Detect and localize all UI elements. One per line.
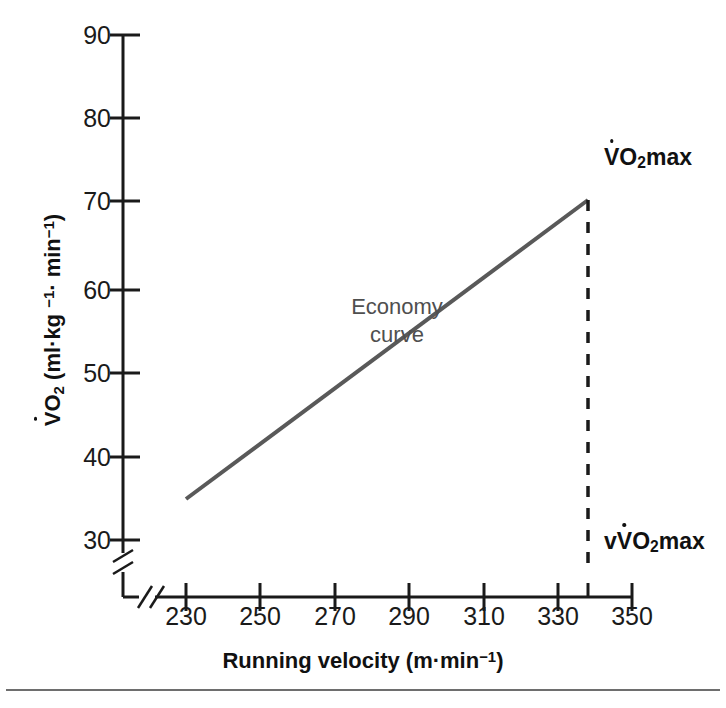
y-axis-title-suffix: ) xyxy=(40,214,65,221)
x-tick-label-270: 270 xyxy=(295,604,375,629)
y-axis-title-mid2: · min xyxy=(40,238,65,291)
x-tick-label-330: 330 xyxy=(518,604,598,629)
vo2max-o-letter: O xyxy=(619,144,637,170)
y-axis-title-o-letter: O xyxy=(40,394,65,411)
y-axis-title: VO2 (ml·kg −1· min−1) xyxy=(40,214,67,426)
bottom-divider-rule xyxy=(6,689,720,691)
x-tick-label-250: 250 xyxy=(220,604,300,629)
x-tick-label-290: 290 xyxy=(369,604,449,629)
vo2max-subscript: 2 xyxy=(637,154,646,171)
y-axis-title-wrapper: VO2 (ml·kg −1· min−1) xyxy=(40,110,80,530)
x-axis-title-suffix: ) xyxy=(496,648,503,673)
y-tick-label-30: 30 xyxy=(55,528,111,553)
label-vvo2max: vVO2max xyxy=(604,530,705,555)
y-axis-title-v-letter: V xyxy=(40,412,66,427)
label-vo2max: VO2max xyxy=(604,146,692,171)
y-tick-label-90: 90 xyxy=(55,23,111,48)
vvo2max-tail: max xyxy=(659,528,705,554)
x-tick-label-230: 230 xyxy=(146,604,226,629)
vo2max-tail: max xyxy=(646,144,692,170)
y-axis-title-subscript: 2 xyxy=(50,386,67,394)
y-axis-title-sup1: −1 xyxy=(40,291,57,308)
x-axis-title-prefix: Running velocity (m·min xyxy=(222,648,479,673)
x-tick-label-350: 350 xyxy=(592,604,672,629)
annotation-economy-curve: Economy curve xyxy=(322,293,472,348)
vvo2max-lead-letter: v xyxy=(604,528,617,554)
vvo2max-subscript: 2 xyxy=(650,538,659,555)
annotation-economy-line1: Economy xyxy=(351,294,443,319)
y-axis-title-sup2: −1 xyxy=(40,221,57,238)
annotation-economy-line2: curve xyxy=(370,322,424,347)
x-tick-label-310: 310 xyxy=(444,604,524,629)
x-axis-title: Running velocity (m·min−1) xyxy=(0,650,726,672)
economy-curve-line xyxy=(186,200,588,499)
vvo2max-v-letter: V xyxy=(617,530,632,553)
x-axis-title-superscript: −1 xyxy=(479,648,496,665)
y-axis-title-mid: (ml·kg xyxy=(40,308,65,386)
figure-container: 90 80 70 60 50 40 30 230 250 270 290 310… xyxy=(0,0,726,708)
vo2max-v-letter: V xyxy=(604,146,619,169)
vvo2max-o-letter: O xyxy=(632,528,650,554)
